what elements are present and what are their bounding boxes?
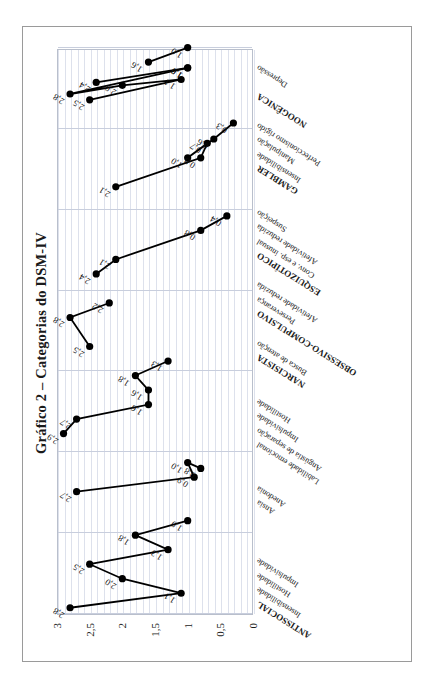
data-point-label: 1,6 [129, 60, 144, 74]
data-point-label: 0,8 [181, 228, 196, 242]
rotated-chart-wrapper: Gráfico 2 – Categorias do DSM-IV 00,511,… [0, 0, 435, 685]
y-tick-label: 2 [116, 623, 128, 629]
data-point-label: 2,0 [103, 576, 118, 590]
x-axis-category-labels: ANTISSOCIALInsensibilidadeHostilidadeImp… [255, 49, 405, 615]
data-point-label: 2,8 [51, 315, 66, 329]
data-point-label: 2,5 [70, 562, 85, 576]
data-value-labels: 2,81,12,02,51,31,81,02,70,91,00,82,92,71… [57, 49, 253, 615]
y-tick-label: 1,5 [149, 623, 161, 637]
gridline-vertical [58, 47, 252, 48]
data-point-label: 1,8 [116, 533, 131, 547]
data-point-label: 2,4 [77, 271, 92, 285]
data-point-label: 1,0 [168, 155, 183, 169]
y-tick-label: 3 [51, 623, 63, 629]
chart-title: Gráfico 2 – Categorias do DSM-IV [33, 29, 50, 657]
data-point-label: 2,2 [90, 301, 105, 315]
data-point-label: 1,0 [168, 65, 183, 79]
data-point-label: 1,8 [116, 373, 131, 387]
y-axis-ticks: 00,511,522,53 [57, 619, 253, 657]
page-root: Gráfico 2 – Categorias do DSM-IV 00,511,… [0, 0, 435, 685]
data-point-label: 2,7 [57, 417, 72, 431]
data-point-label: 2,7 [57, 489, 72, 503]
y-tick-label: 0 [247, 623, 259, 629]
chart-canvas: Gráfico 2 – Categorias do DSM-IV 00,511,… [29, 29, 407, 657]
data-point-label: 1,3 [149, 547, 164, 561]
y-tick-label: 2,5 [83, 623, 95, 637]
data-point-label: 0,3 [214, 121, 229, 135]
data-point-label: 2,4 [77, 80, 92, 94]
data-point-label: 2,1 [96, 184, 111, 198]
data-point-label: 1,0 [168, 460, 183, 474]
data-point-label: 0,4 [208, 213, 223, 227]
data-point-label: 2,5 [70, 344, 85, 358]
data-point-label: 2,0 [103, 83, 118, 97]
data-point-label: 2,5 [70, 97, 85, 111]
data-point-label: 1,1 [162, 77, 177, 91]
y-tick-label: 0,5 [214, 623, 226, 637]
data-point-label: 1,6 [129, 402, 144, 416]
data-point-label: 1,6 [129, 388, 144, 402]
x-category-label: Depressão [255, 63, 289, 89]
y-tick-label: 1 [181, 623, 193, 629]
data-point-label: 2,8 [51, 605, 66, 619]
data-point-label: 1,3 [149, 359, 164, 373]
data-point-label: 2,8 [51, 92, 66, 106]
data-point-label: 1,0 [168, 518, 183, 532]
data-point-label: 2,1 [96, 257, 111, 271]
data-point-label: 1,1 [162, 591, 177, 605]
